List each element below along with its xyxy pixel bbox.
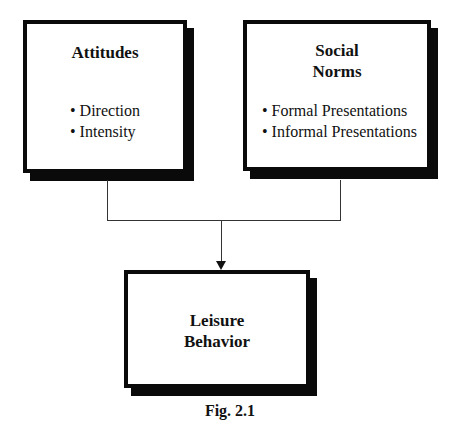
- attitudes-title: Attitudes: [27, 42, 183, 63]
- bullet-intensity: Intensity: [70, 121, 140, 142]
- social-norms-box: Social Norms Formal Presentations Inform…: [243, 20, 431, 171]
- connector-attitudes-down: [107, 180, 108, 221]
- social-norms-title-line-1: Social: [247, 40, 427, 61]
- connector-social-norms-down: [340, 180, 341, 221]
- leisure-behavior-title-line-1: Leisure: [128, 310, 306, 331]
- connector-to-leisure: [221, 220, 222, 262]
- leisure-behavior-title: Leisure Behavior: [128, 310, 306, 352]
- bullet-formal-presentations: Formal Presentations: [262, 100, 417, 121]
- connector-horizontal: [107, 220, 341, 221]
- attitudes-bullet-list: Direction Intensity: [70, 100, 140, 142]
- bullet-direction: Direction: [70, 100, 140, 121]
- social-norms-title: Social Norms: [247, 40, 427, 82]
- social-norms-title-line-2: Norms: [247, 61, 427, 82]
- figure-caption: Fig. 2.1: [0, 402, 455, 420]
- leisure-behavior-box: Leisure Behavior: [124, 270, 310, 388]
- social-norms-bullet-list: Formal Presentations Informal Presentati…: [262, 100, 417, 142]
- bullet-informal-presentations: Informal Presentations: [262, 121, 417, 142]
- leisure-behavior-title-line-2: Behavior: [128, 331, 306, 352]
- arrowhead-icon: [216, 261, 226, 270]
- attitudes-box: Attitudes Direction Intensity: [23, 20, 187, 173]
